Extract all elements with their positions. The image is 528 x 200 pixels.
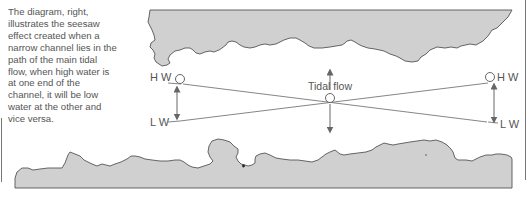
tidal-seesaw-diagram: H W L W Tidal flow H W L W [0, 0, 528, 200]
left-low-water-label: L W [150, 116, 170, 128]
tidal-flow-label: Tidal flow [308, 80, 352, 92]
center-water-level-marker [326, 94, 335, 103]
right-water-level-marker [486, 73, 495, 82]
left-water-level-marker [176, 75, 185, 84]
bottom-coastline [15, 139, 512, 188]
rock-dot [425, 154, 427, 156]
left-high-water-label: H W [150, 71, 172, 83]
top-coastline [148, 10, 512, 66]
rock-dot [242, 165, 245, 168]
right-low-water-label: L W [500, 118, 520, 130]
right-high-water-label: H W [497, 71, 519, 83]
